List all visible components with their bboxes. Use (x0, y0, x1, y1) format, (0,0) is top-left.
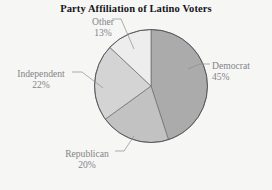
pie-label-republican: Republican 20% (54, 148, 120, 171)
pie-label-democrat-name: Democrat (212, 60, 272, 71)
pie-chart-figure: Party Affiliation of Latino Voters Other… (0, 0, 272, 190)
pie-label-other: Other 13% (80, 16, 126, 39)
pie-label-independent-name: Independent (4, 68, 78, 79)
pie-label-other-value: 13% (80, 27, 126, 38)
pie-label-republican-name: Republican (54, 148, 120, 159)
pie-label-republican-value: 20% (54, 159, 120, 170)
pie-label-independent: Independent 22% (4, 68, 78, 91)
pie-chart-graphic (0, 0, 272, 190)
pie-label-democrat-value: 45% (212, 71, 272, 82)
pie-label-other-name: Other (80, 16, 126, 27)
pie-label-independent-value: 22% (4, 79, 78, 90)
pie-label-democrat: Democrat 45% (212, 60, 272, 83)
